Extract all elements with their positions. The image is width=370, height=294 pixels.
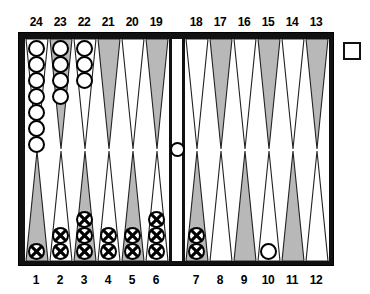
point-9[interactable]: [233, 150, 257, 261]
point-2[interactable]: [49, 150, 73, 261]
point-label-15: 15: [257, 14, 279, 30]
point-8[interactable]: [209, 150, 233, 261]
point-19[interactable]: [145, 39, 169, 150]
checker-cross-point-2[interactable]: [52, 243, 69, 260]
point-18[interactable]: [185, 39, 209, 150]
point-label-1: 1: [25, 272, 47, 288]
checker-cross-point-1[interactable]: [28, 243, 45, 260]
checker-cross-point-3[interactable]: [76, 243, 93, 260]
point-triangle-21: [97, 39, 121, 150]
point-label-23: 23: [49, 14, 71, 30]
point-label-21: 21: [97, 14, 119, 30]
point-label-19: 19: [145, 14, 167, 30]
checker-white-point-24[interactable]: [28, 56, 45, 73]
checker-white-point-10[interactable]: [260, 243, 277, 260]
point-label-9: 9: [233, 272, 255, 288]
point-22[interactable]: [73, 39, 97, 150]
point-triangle-14: [281, 39, 305, 150]
checker-white-point-24[interactable]: [28, 88, 45, 105]
checker-cross-point-6[interactable]: [148, 211, 165, 228]
checker-cross-point-4[interactable]: [100, 243, 117, 260]
checker-white-point-22[interactable]: [76, 40, 93, 57]
point-label-16: 16: [233, 14, 255, 30]
point-7[interactable]: [185, 150, 209, 261]
point-21[interactable]: [97, 39, 121, 150]
point-triangle-20: [121, 39, 145, 150]
quadrant-top-left: [25, 39, 169, 150]
point-20[interactable]: [121, 39, 145, 150]
point-label-2: 2: [49, 272, 71, 288]
top-point-labels: 242322212019181716151413: [0, 14, 370, 30]
doubling-cube[interactable]: [343, 42, 361, 60]
board-frame: [18, 32, 334, 266]
checker-cross-point-5[interactable]: [124, 243, 141, 260]
board-surface: [25, 39, 329, 261]
point-23[interactable]: [49, 39, 73, 150]
point-label-13: 13: [305, 14, 327, 30]
checker-white-point-24[interactable]: [28, 136, 45, 153]
checker-white-point-23[interactable]: [52, 40, 69, 57]
point-label-18: 18: [185, 14, 207, 30]
point-3[interactable]: [73, 150, 97, 261]
point-1[interactable]: [25, 150, 49, 261]
point-11[interactable]: [281, 150, 305, 261]
checker-cross-point-3[interactable]: [76, 227, 93, 244]
quadrant-bottom-left: [25, 150, 169, 261]
checker-cross-point-7[interactable]: [188, 243, 205, 260]
point-10[interactable]: [257, 150, 281, 261]
quadrant-top-right: [185, 39, 329, 150]
checker-cross-point-7[interactable]: [188, 227, 205, 244]
point-triangle-13: [305, 39, 329, 150]
checker-white-point-23[interactable]: [52, 56, 69, 73]
checker-cross-point-5[interactable]: [124, 227, 141, 244]
point-6[interactable]: [145, 150, 169, 261]
checker-white-point-23[interactable]: [52, 88, 69, 105]
point-label-17: 17: [209, 14, 231, 30]
point-17[interactable]: [209, 39, 233, 150]
point-13[interactable]: [305, 39, 329, 150]
point-16[interactable]: [233, 39, 257, 150]
checker-cross-point-2[interactable]: [52, 227, 69, 244]
checker-cross-point-4[interactable]: [100, 227, 117, 244]
point-triangle-16: [233, 39, 257, 150]
checker-white-point-24[interactable]: [28, 120, 45, 137]
checker-cross-point-3[interactable]: [76, 211, 93, 228]
point-label-3: 3: [73, 272, 95, 288]
point-14[interactable]: [281, 39, 305, 150]
checker-white-point-24[interactable]: [28, 104, 45, 121]
point-label-8: 8: [209, 272, 231, 288]
point-4[interactable]: [97, 150, 121, 261]
point-label-14: 14: [281, 14, 303, 30]
point-triangle-12: [305, 150, 329, 261]
point-label-7: 7: [185, 272, 207, 288]
point-label-6: 6: [145, 272, 167, 288]
point-label-12: 12: [305, 272, 327, 288]
point-triangle-11: [281, 150, 305, 261]
point-label-20: 20: [121, 14, 143, 30]
checker-cross-point-6[interactable]: [148, 227, 165, 244]
checker-cross-point-6[interactable]: [148, 243, 165, 260]
point-triangle-8: [209, 150, 233, 261]
bottom-point-labels: 123456789101112: [0, 272, 370, 288]
quadrant-bottom-right: [185, 150, 329, 261]
point-label-22: 22: [73, 14, 95, 30]
point-triangle-9: [233, 150, 257, 261]
checker-white-point-22[interactable]: [76, 56, 93, 73]
checker-white-point-23[interactable]: [52, 72, 69, 89]
bar-checker-white[interactable]: [170, 142, 185, 157]
point-5[interactable]: [121, 150, 145, 261]
checker-white-point-22[interactable]: [76, 72, 93, 89]
point-label-4: 4: [97, 272, 119, 288]
point-triangle-19: [145, 39, 169, 150]
point-label-11: 11: [281, 272, 303, 288]
point-triangle-15: [257, 39, 281, 150]
checker-white-point-24[interactable]: [28, 40, 45, 57]
point-15[interactable]: [257, 39, 281, 150]
point-12[interactable]: [305, 150, 329, 261]
point-24[interactable]: [25, 39, 49, 150]
backgammon-board: 242322212019181716151413 123456789101112: [0, 0, 370, 294]
point-triangle-18: [185, 39, 209, 150]
point-label-24: 24: [25, 14, 47, 30]
checker-white-point-24[interactable]: [28, 72, 45, 89]
point-label-10: 10: [257, 272, 279, 288]
